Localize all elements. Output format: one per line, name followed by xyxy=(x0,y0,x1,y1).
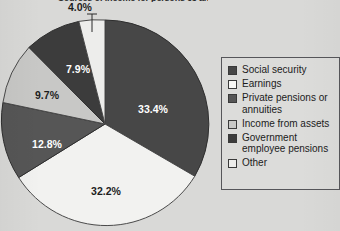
legend-swatch-icon-income-from-assets xyxy=(228,120,237,129)
legend-swatch-icon-private-pensions xyxy=(228,94,237,103)
pie-label-government-pensions: 7.9% xyxy=(66,63,91,75)
pie-label-other: 4.0% xyxy=(68,1,92,13)
pie-label-social-security: 33.4% xyxy=(138,103,168,115)
chart-canvas: Sources of income for persons 65 and ove… xyxy=(0,0,340,231)
legend-item-income-from-assets[interactable]: Income from assets xyxy=(228,118,335,130)
legend-item-private-pensions[interactable]: Private pensions or annuities xyxy=(228,92,335,115)
legend-item-earnings[interactable]: Earnings xyxy=(228,78,335,90)
legend-label-social-security: Social security xyxy=(242,64,306,76)
legend-item-social-security[interactable]: Social security xyxy=(228,64,335,76)
legend-swatch-icon-government-pensions xyxy=(228,134,237,143)
legend-label-income-from-assets: Income from assets xyxy=(242,118,329,130)
legend-label-other: Other xyxy=(242,157,267,169)
legend-swatch-icon-other xyxy=(228,159,237,168)
legend-label-private-pensions: Private pensions or annuities xyxy=(242,92,335,115)
pie-label-earnings: 32.2% xyxy=(91,185,121,197)
pie-chart: 33.4% 32.2% 12.8% 9.7% 7.9% xyxy=(0,8,214,231)
pie-chart-svg: 33.4% 32.2% 12.8% 9.7% 7.9% xyxy=(0,8,214,231)
legend-label-government-pensions: Government employee pensions xyxy=(242,132,335,155)
legend-item-other[interactable]: Other xyxy=(228,157,335,169)
legend-label-earnings: Earnings xyxy=(242,78,281,90)
chart-legend: Social security Earnings Private pension… xyxy=(221,57,340,190)
legend-swatch-icon-social-security xyxy=(228,66,237,75)
pie-label-private-pensions: 12.8% xyxy=(32,138,62,150)
legend-item-government-pensions[interactable]: Government employee pensions xyxy=(228,132,335,155)
pie-label-income-from-assets: 9.7% xyxy=(35,89,60,101)
legend-swatch-icon-earnings xyxy=(228,80,237,89)
